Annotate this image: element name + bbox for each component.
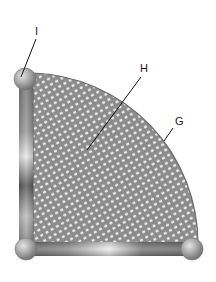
leader-line-G <box>164 128 173 141</box>
mesh-panel <box>33 73 198 244</box>
ball-joint-bottom-left <box>15 238 37 260</box>
ball-joint-bottom-right <box>181 238 203 260</box>
label-I: I <box>35 25 38 37</box>
vertical-frame-bar <box>19 80 33 250</box>
label-H: H <box>140 62 148 74</box>
horizontal-frame-bar <box>26 242 192 256</box>
label-G: G <box>175 115 184 127</box>
quarter-mesh-diagram: I H G <box>0 0 216 282</box>
ball-joint-top-left <box>14 68 36 90</box>
